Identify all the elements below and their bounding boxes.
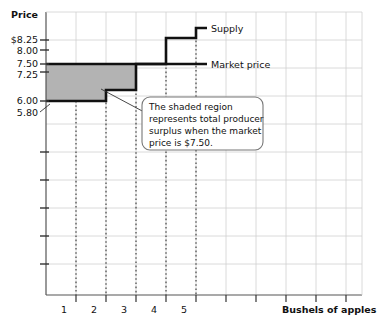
- market-price-label: Market price: [211, 59, 270, 70]
- y-tick-label-7-25: 7.25: [17, 69, 38, 80]
- y-tick-label-8-00: 8.00: [17, 45, 38, 56]
- x-axis-ticks: [76, 295, 346, 302]
- callout-line-4: price is $7.50.: [149, 138, 213, 148]
- callout-line-3: surplus when the market: [149, 126, 262, 136]
- y-tick-label-7-50: 7.50: [17, 58, 38, 69]
- x-tick-label-2: 2: [91, 304, 97, 315]
- y-tick-label-6-00: 6.00: [17, 95, 38, 106]
- x-tick-label-3: 3: [121, 304, 127, 315]
- x-axis-title: Bushels of apples: [282, 304, 377, 315]
- x-tick-label-4: 4: [151, 304, 157, 315]
- callout-line-2: represents total producer: [149, 114, 264, 124]
- x-tick-label-5: 5: [181, 304, 187, 315]
- chart-canvas: Price $8.25 8.00 7.50 7.25 6.00 5.80 1 2…: [0, 0, 378, 320]
- y-tick-label-5-80: 5.80: [17, 107, 38, 118]
- y-tick-label-8-25: $8.25: [11, 34, 38, 45]
- callout-line-1: The shaded region: [148, 102, 233, 112]
- supply-curve-label: Supply: [211, 23, 244, 34]
- plot-background: [46, 12, 362, 295]
- y-axis-title: Price: [11, 9, 38, 20]
- producer-surplus-chart: Price $8.25 8.00 7.50 7.25 6.00 5.80 1 2…: [0, 0, 378, 320]
- x-tick-label-1: 1: [61, 304, 67, 315]
